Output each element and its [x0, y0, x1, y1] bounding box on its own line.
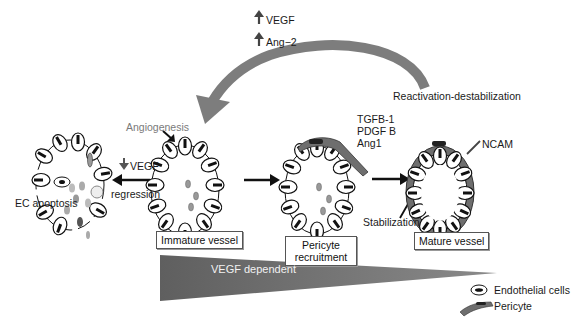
legend-pericyte-icon [460, 302, 493, 316]
stage-box-mature: Mature vessel [414, 232, 489, 250]
progression-arrow-2 [372, 173, 410, 185]
factor-pdgfb: PDGF B [357, 125, 396, 137]
factor-tgfb1: TGFB-1 [357, 113, 394, 125]
legend-endothelial-cell-icon [471, 285, 487, 295]
stage-box-pericyte: Pericyte recruitment [285, 236, 357, 266]
down-arrow-icon [119, 158, 129, 170]
regression-label: regression [111, 188, 160, 200]
stage-label: Immature vessel [161, 234, 238, 246]
stabilization-label: Stabilization [363, 216, 420, 228]
stage-box-immature: Immature vessel [156, 231, 243, 249]
progression-arrow [244, 174, 280, 186]
ncam-pointer [467, 141, 480, 154]
legend-endothelial-label: Endothelial cells [494, 284, 570, 296]
pericyte-recruitment-vessel [279, 138, 368, 240]
vegf-up-label: VEGF [266, 14, 295, 26]
regression-vegf-label: VEGF [130, 160, 159, 172]
stage-label-line2: recruitment [290, 251, 352, 263]
angiogenesis-label: Angiogenesis [126, 121, 189, 133]
regression-arrow [112, 174, 150, 186]
legend-pericyte-label: Pericyte [494, 300, 532, 312]
stage-label: Mature vessel [419, 235, 484, 247]
regressing-vessel [32, 132, 113, 239]
ncam-label: NCAM [482, 138, 513, 150]
up-arrow-icon [254, 10, 264, 46]
vegf-dependent-label: VEGF dependent [211, 263, 296, 275]
ec-apoptosis-label: EC apoptosis [15, 197, 77, 209]
ang2-up-label: Ang−2 [266, 36, 297, 48]
reactivation-label: Reactivation-destabilization [393, 90, 521, 102]
stage-label-line1: Pericyte [290, 239, 352, 251]
factor-ang1: Ang1 [357, 137, 382, 149]
